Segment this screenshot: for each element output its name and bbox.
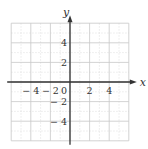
y-tick-label: − 4 xyxy=(50,116,67,127)
y-tick-label: 4 xyxy=(61,37,67,48)
coordinate-plane: x y − 4− 2024 42− 2− 4 xyxy=(0,0,148,149)
x-tick-label: − 2 xyxy=(42,85,59,96)
x-axis-label: x xyxy=(140,76,147,89)
x-tick-label: − 4 xyxy=(22,85,39,96)
x-tick-labels: − 4− 2024 xyxy=(22,85,112,96)
x-tick-label: 4 xyxy=(106,85,112,96)
y-axis-label: y xyxy=(62,6,70,19)
y-tick-label: 2 xyxy=(61,57,67,68)
x-tick-label: 2 xyxy=(87,85,93,96)
axes xyxy=(7,15,137,145)
y-tick-label: − 2 xyxy=(50,96,67,107)
x-axis-arrow-icon xyxy=(130,80,137,85)
x-tick-label: 0 xyxy=(61,85,67,96)
grid-svg: x y − 4− 2024 42− 2− 4 xyxy=(0,0,148,149)
